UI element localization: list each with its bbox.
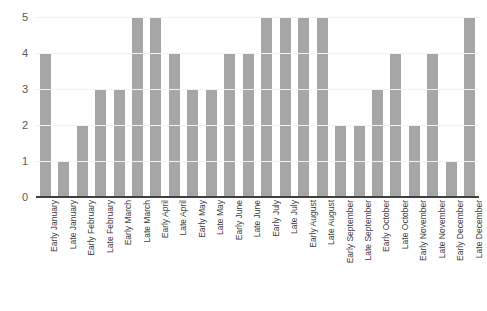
y-tick-label: 1 — [22, 156, 28, 167]
x-tick-label: Late January — [68, 200, 79, 249]
x-tick-label: Late March — [142, 200, 153, 243]
x-tick-label: Late December — [474, 200, 485, 258]
bar[interactable] — [280, 17, 291, 197]
x-tick-label: Late February — [105, 200, 116, 253]
x-tick-label: Late May — [215, 200, 226, 235]
bar[interactable] — [261, 17, 272, 197]
x-tick-label: Late April — [178, 200, 189, 235]
bar[interactable] — [95, 89, 106, 197]
bar[interactable] — [298, 17, 309, 197]
x-axis-labels: Early JanuaryLate JanuaryEarly FebruaryL… — [36, 200, 479, 308]
bar[interactable] — [464, 17, 475, 197]
x-tick-label: Late June — [252, 200, 263, 237]
y-tick-label: 2 — [22, 120, 28, 131]
x-tick-label: Late October — [400, 200, 411, 249]
plot-area — [36, 17, 479, 197]
bar[interactable] — [150, 17, 161, 197]
bar-chart: 012345 Early JanuaryLate JanuaryEarly Fe… — [0, 0, 487, 311]
x-tick-label: Late September — [363, 200, 374, 260]
x-tick-label: Early January — [49, 200, 60, 252]
x-tick-label: Early October — [381, 200, 392, 252]
bar[interactable] — [114, 89, 125, 197]
x-tick-label: Late July — [289, 200, 300, 234]
x-tick-label: Early April — [160, 200, 171, 238]
y-tick-label: 3 — [22, 84, 28, 95]
bar[interactable] — [372, 89, 383, 197]
x-tick-label: Early November — [418, 200, 429, 261]
x-tick-label: Early May — [197, 200, 208, 238]
y-tick-label: 0 — [22, 192, 28, 203]
bar[interactable] — [206, 89, 217, 197]
x-axis-line — [36, 196, 479, 198]
bar[interactable] — [132, 17, 143, 197]
x-tick-label: Early March — [123, 200, 134, 245]
bars-layer — [36, 17, 479, 197]
x-tick-label: Early February — [86, 200, 97, 256]
x-tick-label: Late November — [437, 200, 448, 258]
x-tick-label: Early August — [308, 200, 319, 248]
x-tick-label: Early December — [455, 200, 466, 261]
gridline — [36, 53, 479, 54]
y-tick-label: 5 — [22, 12, 28, 23]
x-tick-label: Early September — [345, 200, 356, 263]
y-tick-label: 4 — [22, 48, 28, 59]
bar[interactable] — [446, 161, 457, 197]
bar[interactable] — [58, 161, 69, 197]
gridline — [36, 161, 479, 162]
gridline — [36, 125, 479, 126]
x-tick-label: Late August — [326, 200, 337, 245]
x-tick-label: Early June — [234, 200, 245, 240]
gridline — [36, 89, 479, 90]
gridline — [36, 17, 479, 18]
y-axis: 012345 — [0, 0, 36, 311]
bar[interactable] — [317, 17, 328, 197]
bar[interactable] — [187, 89, 198, 197]
x-tick-label: Early July — [271, 200, 282, 237]
